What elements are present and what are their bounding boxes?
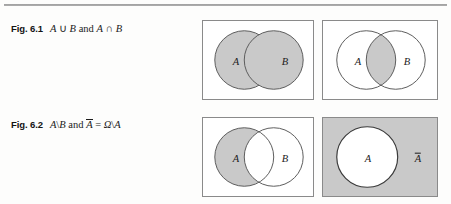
- figure-caption-6-2: Fig. 6.2A\B and A = Ω\A: [11, 114, 121, 132]
- equals-operator: =: [95, 119, 101, 130]
- venn-label-b: B: [282, 56, 288, 67]
- venn-label-a: A: [233, 153, 239, 164]
- venn-label-a: A: [365, 153, 371, 164]
- venn-panel-complement: A A: [322, 117, 438, 197]
- caption-term-a2-fig2: A: [114, 119, 120, 130]
- venn-panel-intersection: A B: [322, 20, 438, 100]
- venn-label-a: A: [233, 56, 239, 67]
- caption-term-b1-fig2: B: [59, 119, 65, 130]
- caption-conjunction-2: and: [68, 119, 83, 130]
- figure-caption-math-6-2: A\B and A = Ω\A: [50, 119, 121, 130]
- figure-caption-math-6-1: A ∪ B and A ∩ B: [50, 23, 122, 34]
- venn-label-b: B: [404, 56, 410, 67]
- caption-term-a2: A: [96, 23, 102, 34]
- top-horizontal-rule: [4, 4, 447, 6]
- intersection-operator: ∩: [106, 23, 114, 34]
- union-operator: ∪: [59, 23, 67, 34]
- caption-term-b2: B: [116, 23, 122, 34]
- caption-term-a-bar: A: [86, 119, 92, 130]
- caption-term-b1: B: [70, 23, 76, 34]
- caption-term-a1: A: [50, 23, 56, 34]
- venn-label-a-bar: A: [415, 153, 421, 164]
- venn-label-b: B: [282, 153, 288, 164]
- figure-caption-6-1: Fig. 6.1A ∪ B and A ∩ B: [11, 18, 122, 36]
- figure-number-6-2: Fig. 6.2: [11, 119, 43, 130]
- figure-page: Fig. 6.1A ∪ B and A ∩ B Fig. 6.2A\B and …: [0, 0, 451, 204]
- venn-panel-difference: A B: [202, 117, 314, 197]
- venn-panel-union: A B: [202, 20, 314, 100]
- venn-label-a: A: [355, 56, 361, 67]
- venn-diagram-intersection: [323, 21, 437, 99]
- caption-conjunction-1: and: [79, 23, 94, 34]
- figure-number-6-1: Fig. 6.1: [11, 23, 43, 34]
- venn-diagram-union: [203, 21, 313, 99]
- venn-diagram-difference: [203, 118, 313, 196]
